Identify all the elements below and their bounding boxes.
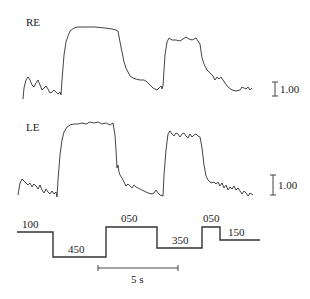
stimulus-level-label: 050 [203, 213, 220, 224]
figure-graphics [0, 0, 310, 299]
stimulus-level-label: 100 [22, 219, 39, 230]
stimulus-level-label: 150 [228, 227, 245, 238]
figure: RE LE 1.00 1.00 100 450 050 350 050 150 … [0, 0, 310, 299]
le-trace [18, 122, 253, 197]
stimulus-level-label: 450 [68, 244, 85, 255]
re-trace [23, 27, 252, 99]
stimulus-step-trace [17, 227, 260, 257]
le-label: LE [26, 122, 39, 133]
time-scale-label: 5 s [131, 274, 144, 285]
stimulus-level-label: 050 [121, 213, 138, 224]
stimulus-level-label: 350 [172, 235, 189, 246]
le-scale-label: 1.00 [278, 180, 297, 191]
re-scale-label: 1.00 [280, 84, 299, 95]
re-label: RE [26, 17, 40, 28]
